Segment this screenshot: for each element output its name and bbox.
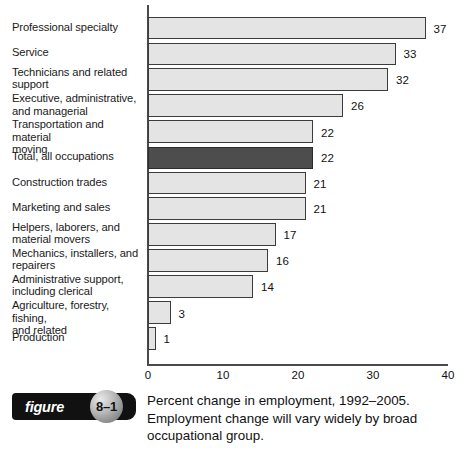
bar-container: 22 <box>148 145 448 170</box>
category-label: Marketing and sales <box>12 201 144 214</box>
bar-value-label: 14 <box>261 281 274 293</box>
bar-container: 37 <box>148 16 448 41</box>
figure-badge-number: 8–1 <box>90 390 123 423</box>
chart-row: Technicians and relatedsupport32 <box>0 67 473 93</box>
bar-value-label: 37 <box>434 23 447 35</box>
bar <box>148 301 171 324</box>
bar-container: 32 <box>148 67 448 93</box>
category-label-line: Administrative support, <box>12 273 144 286</box>
category-label: Technicians and relatedsupport <box>12 66 144 91</box>
bar-value-label: 21 <box>314 178 327 190</box>
figure-badge-word: figure <box>25 398 64 416</box>
figure-badge-sphere: 8–1 <box>90 390 123 423</box>
bar-value-label: 26 <box>351 100 364 112</box>
bar-value-label: 1 <box>164 333 170 345</box>
bar <box>148 43 396 65</box>
figure-caption-text: Percent change in employment, 1992–2005.… <box>147 392 467 445</box>
category-label-line: Total, all occupations <box>12 150 144 163</box>
bar <box>148 249 268 272</box>
x-tick-label: 0 <box>145 368 151 382</box>
category-label: Production <box>12 331 144 344</box>
bar-value-label: 3 <box>179 308 185 320</box>
category-label-line: Technicians and related <box>12 66 144 79</box>
category-label: Helpers, laborers, andmaterial movers <box>12 221 144 246</box>
chart-row: Executive, administrative,and managerial… <box>0 93 473 119</box>
bar-container: 17 <box>148 222 448 248</box>
chart-row: Agriculture, forestry, fishing,and relat… <box>0 300 473 326</box>
bar-container: 16 <box>148 248 448 274</box>
bar <box>148 94 343 117</box>
category-label-line: Construction trades <box>12 176 144 189</box>
chart-row: Administrative support,including clerica… <box>0 274 473 300</box>
caption-line: Percent change in employment, 1992–2005. <box>147 392 467 410</box>
bar-container: 33 <box>148 41 448 66</box>
bar <box>148 223 276 246</box>
category-label: Executive, administrative,and managerial <box>12 92 144 117</box>
caption-line: occupational group. <box>147 427 467 445</box>
bar <box>148 172 306 194</box>
x-axis-tick-labels: 010203040 <box>0 368 473 386</box>
category-label: Administrative support,including clerica… <box>12 273 144 298</box>
category-label-line: including clerical <box>12 285 144 298</box>
figure-badge: figure 8–1 <box>12 393 136 420</box>
category-label-line: Executive, administrative, <box>12 92 144 105</box>
bar-value-label: 33 <box>404 48 417 60</box>
bar <box>148 68 388 91</box>
bar <box>148 120 313 143</box>
bar <box>148 275 253 298</box>
chart-row: Mechanics, installers, andrepairers16 <box>0 248 473 274</box>
caption-line: Employment change will vary widely by br… <box>147 410 467 428</box>
category-label-line: Mechanics, installers, and <box>12 247 144 260</box>
x-axis-line <box>147 364 448 366</box>
x-tick-label: 40 <box>442 368 455 382</box>
category-label: Mechanics, installers, andrepairers <box>12 247 144 272</box>
chart-row: Total, all occupations22 <box>0 145 473 170</box>
bar-container: 21 <box>148 171 448 196</box>
category-label-line: Marketing and sales <box>12 201 144 214</box>
category-label-line: repairers <box>12 259 144 272</box>
figure-caption-block: figure 8–1 Percent change in employment,… <box>0 390 473 453</box>
x-tick-label: 20 <box>292 368 305 382</box>
category-label-line: Production <box>12 331 144 344</box>
bar-value-label: 32 <box>396 74 409 86</box>
category-label: Construction trades <box>12 176 144 189</box>
bar-container: 1 <box>148 326 448 351</box>
bar-value-label: 17 <box>284 229 297 241</box>
bar-value-label: 21 <box>314 203 327 215</box>
chart-row: Transportation and materialmoving22 <box>0 119 473 145</box>
x-tick-label: 30 <box>367 368 380 382</box>
bar-container: 26 <box>148 93 448 119</box>
bar-chart: Professional specialty37Service33Technic… <box>0 0 473 385</box>
category-label: Service <box>12 46 144 59</box>
chart-row: Production1 <box>0 326 473 351</box>
category-label-line: and managerial <box>12 105 144 118</box>
bar <box>148 197 306 219</box>
x-tick-label: 10 <box>217 368 230 382</box>
bar-container: 3 <box>148 300 448 326</box>
bar-container: 14 <box>148 274 448 300</box>
chart-row: Marketing and sales21 <box>0 196 473 221</box>
bar <box>148 327 156 349</box>
chart-rows: Professional specialty37Service33Technic… <box>0 16 473 352</box>
category-label-line: Helpers, laborers, and <box>12 221 144 234</box>
bar-highlighted <box>148 147 313 169</box>
bar <box>148 17 426 39</box>
category-label-line: Transportation and material <box>12 118 144 143</box>
category-label-line: Agriculture, forestry, fishing, <box>12 299 144 324</box>
category-label-line: support <box>12 78 144 91</box>
bar-container: 21 <box>148 196 448 221</box>
chart-row: Professional specialty37 <box>0 16 473 41</box>
category-label-line: Service <box>12 46 144 59</box>
chart-row: Helpers, laborers, andmaterial movers17 <box>0 222 473 248</box>
bar-value-label: 22 <box>321 127 334 139</box>
bar-value-label: 22 <box>321 152 334 164</box>
category-label: Professional specialty <box>12 21 144 34</box>
chart-row: Service33 <box>0 41 473 66</box>
bar-container: 22 <box>148 119 448 145</box>
category-label-line: material movers <box>12 233 144 246</box>
bar-value-label: 16 <box>276 255 289 267</box>
category-label: Total, all occupations <box>12 150 144 163</box>
category-label-line: Professional specialty <box>12 21 144 34</box>
chart-row: Construction trades21 <box>0 171 473 196</box>
